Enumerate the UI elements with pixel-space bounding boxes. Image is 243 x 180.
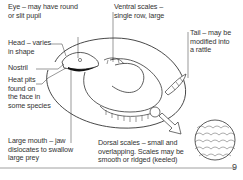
magnifier-origin bbox=[150, 107, 160, 117]
page-number: 9 bbox=[232, 162, 237, 172]
leader-nostril bbox=[36, 64, 64, 69]
label-ventral-scales: Ventral scales – single row, large bbox=[114, 3, 164, 20]
snake-tail-rattle bbox=[165, 74, 186, 95]
snake-body-inner-2 bbox=[112, 63, 144, 92]
label-nostril: Nostril bbox=[8, 64, 28, 73]
zoom-arrow bbox=[159, 113, 181, 134]
leader-head bbox=[50, 44, 66, 56]
label-dorsal-scales: Dorsal scales – small and overlapping. S… bbox=[98, 139, 184, 165]
label-mouth: Large mouth – jaw dislocates to swallow … bbox=[8, 137, 73, 163]
label-heat-pits: Heat pits found on the face in some spec… bbox=[8, 76, 51, 110]
label-head: Head – varies in shape bbox=[8, 39, 51, 56]
label-eye: Eye – may have round or slit pupil bbox=[8, 3, 78, 20]
snake-eye bbox=[78, 58, 81, 61]
label-tail: Tail – may be modified into a rattle bbox=[190, 29, 231, 55]
